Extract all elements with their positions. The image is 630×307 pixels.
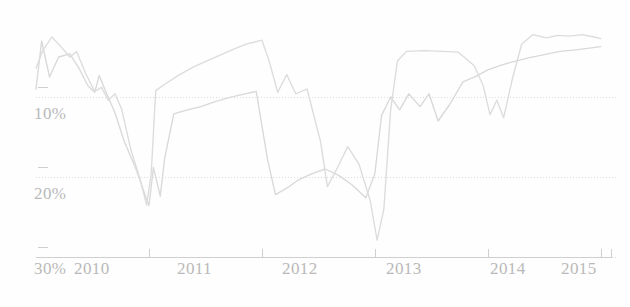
x-tick-label-2010: 2010 bbox=[74, 259, 110, 279]
data-line-series-b bbox=[36, 35, 601, 241]
x-tick-label-2015: 2015 bbox=[561, 259, 597, 279]
x-tick-label-2013: 2013 bbox=[386, 259, 422, 279]
x-tick-label-2012: 2012 bbox=[282, 259, 318, 279]
series-layer bbox=[36, 35, 601, 241]
gridlines bbox=[36, 98, 618, 258]
y-tick-label-30: 30% bbox=[34, 259, 66, 279]
y-tick-label-20: 20% bbox=[34, 184, 66, 204]
chart-container: 10% 20% 30% 2010 2011 2012 2013 2014 201… bbox=[0, 0, 630, 307]
x-axis bbox=[36, 249, 612, 258]
x-tick-label-2014: 2014 bbox=[490, 259, 526, 279]
x-tick-label-2011: 2011 bbox=[177, 259, 212, 279]
y-tick-label-10: 10% bbox=[34, 104, 66, 124]
